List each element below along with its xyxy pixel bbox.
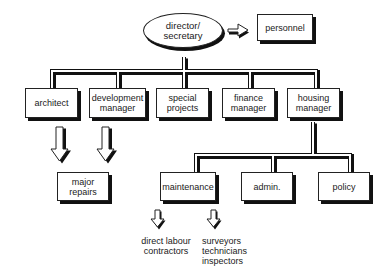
director-secretary-node: director/ secretary xyxy=(143,13,223,48)
policy-label: policy xyxy=(332,182,355,192)
maintenance-label: maintenance xyxy=(162,182,214,192)
development-manager-node: development manager xyxy=(89,88,146,118)
architect-node: architect xyxy=(25,88,78,118)
top-bus xyxy=(52,57,318,90)
development-manager-label: development manager xyxy=(92,93,144,113)
finance-manager-node: finance manager xyxy=(222,88,275,118)
special-projects-node: special projects xyxy=(156,88,209,118)
major-repairs-node: major repairs xyxy=(57,172,109,201)
architect-label: architect xyxy=(34,98,68,108)
admin-node: admin. xyxy=(241,172,293,201)
maintenance-node: maintenance xyxy=(160,172,216,201)
housing-manager-node: housing manager xyxy=(287,88,340,118)
direct-labour-contractors-text: direct labour contractors xyxy=(131,236,201,256)
finance-manager-label: finance manager xyxy=(231,93,267,113)
arrow-down-icon-maintenance-left xyxy=(151,210,166,230)
personnel-label: personnel xyxy=(265,23,305,33)
admin-label: admin. xyxy=(253,182,280,192)
arrow-down-icon-maintenance-right xyxy=(207,210,222,230)
director-secretary-label: director/ secretary xyxy=(163,21,202,41)
arrow-right-icon xyxy=(228,24,249,39)
arrow-down-icon-architect xyxy=(51,127,71,164)
arrow-down-icon-development xyxy=(97,127,117,164)
policy-node: policy xyxy=(318,172,370,201)
surveyors-technicians-inspectors-text: surveyors technicians inspectors xyxy=(202,236,262,266)
housing-manager-label: housing manager xyxy=(296,93,332,113)
special-projects-label: special projects xyxy=(167,93,199,113)
major-repairs-label: major repairs xyxy=(69,177,97,197)
personnel-node: personnel xyxy=(257,14,313,41)
